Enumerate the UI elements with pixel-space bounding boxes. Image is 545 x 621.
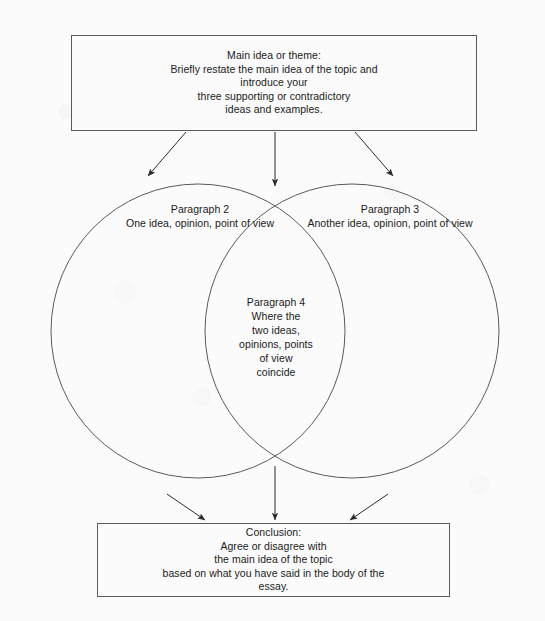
right-circle-label: Paragraph 3 Another idea, opinion, point… <box>290 203 490 230</box>
left-circle-label: Paragraph 2 One idea, opinion, point of … <box>105 203 295 230</box>
arrow-right-circle-to-conclusion <box>350 494 388 520</box>
arrow-left-circle-to-conclusion <box>167 494 205 520</box>
intersection-label: Paragraph 4 Where the two ideas, opinion… <box>222 295 330 379</box>
intro-box-text: Main idea or theme: Briefly restate the … <box>170 49 377 117</box>
intro-box: Main idea or theme: Briefly restate the … <box>71 35 477 131</box>
arrow-intro-to-left-circle <box>148 132 186 176</box>
arrow-intro-to-right-circle <box>355 132 393 176</box>
diagram-canvas: Main idea or theme: Briefly restate the … <box>0 0 545 621</box>
conclusion-box: Conclusion: Agree or disagree with the m… <box>97 523 450 597</box>
conclusion-box-text: Conclusion: Agree or disagree with the m… <box>163 526 385 594</box>
